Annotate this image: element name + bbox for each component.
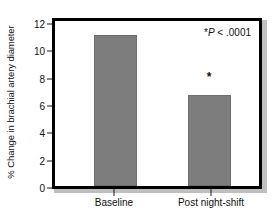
bar-post-night-shift[interactable] [188,95,231,186]
y-tick-label: 0 [39,183,45,194]
x-tick-label-baseline: Baseline [95,197,133,208]
y-axis-label: % Change in brachial artery diameter [2,4,18,200]
plot-inner-area: * *P < .0001 [55,21,259,186]
bar-baseline[interactable] [94,35,137,186]
x-tick-mark [114,189,115,196]
y-tick-label: 2 [39,155,45,166]
plot-area: * *P < .0001 [52,18,262,189]
y-tick-label: 12 [34,19,45,30]
y-tick-label: 4 [39,128,45,139]
bar-chart-figure: % Change in brachial artery diameter 12 … [0,0,279,217]
y-tick-label: 6 [39,101,45,112]
x-tick-mark [211,189,212,196]
p-symbol: P [208,27,215,38]
bar-significance-marker: * [207,72,212,82]
x-tick-label-post-night-shift: Post night-shift [178,197,244,208]
y-tick-label: 8 [39,73,45,84]
x-axis-ticks: Baseline Post night-shift [52,189,262,217]
significance-note: *P < .0001 [204,27,251,38]
y-tick-label: 10 [34,46,45,57]
p-value-text: < .0001 [215,27,251,38]
y-axis-ticks: 12 10 8 6 4 2 0 [20,0,54,217]
